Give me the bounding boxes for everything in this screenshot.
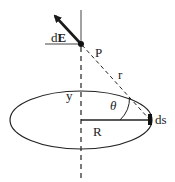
label-y: y xyxy=(66,88,73,103)
label-theta: θ xyxy=(110,98,117,113)
label-ds: ds xyxy=(155,112,167,127)
label-P: P xyxy=(95,45,102,60)
ds-element-mark xyxy=(148,114,152,125)
angle-arc-theta xyxy=(120,97,130,120)
point-P-dot xyxy=(78,41,84,47)
label-dE: dE xyxy=(51,30,66,45)
label-r: r xyxy=(118,67,123,82)
ring-field-diagram: dE P r y θ R ds xyxy=(0,0,175,182)
label-R: R xyxy=(93,124,102,139)
